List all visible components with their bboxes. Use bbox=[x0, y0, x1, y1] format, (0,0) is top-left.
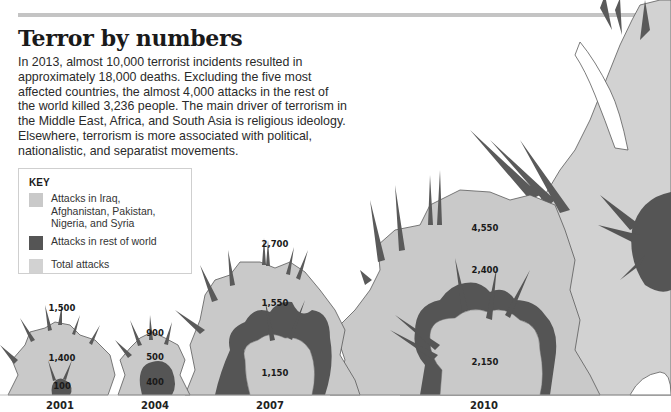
legend-item-rest-of-world: Attacks in rest of world bbox=[29, 235, 181, 250]
value-2004-total: 900 bbox=[146, 328, 164, 338]
legend-swatch-rest-of-world bbox=[29, 236, 43, 250]
value-2001-five: 1,400 bbox=[49, 353, 76, 363]
value-2010-total: 4,550 bbox=[472, 223, 499, 233]
value-2007-total: 2,700 bbox=[262, 239, 289, 249]
value-2004-five: 500 bbox=[146, 352, 164, 362]
value-2004-rest: 400 bbox=[146, 377, 164, 387]
year-label-2010: 2010 bbox=[470, 400, 498, 411]
year-label-2001: 2001 bbox=[46, 400, 74, 411]
legend-item-total: Total attacks bbox=[29, 258, 181, 273]
legend-label: Attacks in Iraq, Afghanistan, Pakistan, … bbox=[51, 192, 181, 230]
value-2007-rest: 1,550 bbox=[262, 298, 289, 308]
legend-swatch-five-countries bbox=[29, 193, 43, 207]
value-2001-total: 1,500 bbox=[49, 303, 76, 313]
legend-label: Attacks in rest of world bbox=[51, 235, 157, 248]
value-2010-rest: 2,400 bbox=[472, 265, 499, 275]
legend-label: Total attacks bbox=[51, 258, 109, 271]
value-2007-five: 1,150 bbox=[262, 368, 289, 378]
legend: KEY Attacks in Iraq, Afghanistan, Pakist… bbox=[18, 168, 192, 274]
year-label-2007: 2007 bbox=[256, 400, 284, 411]
legend-item-five-countries: Attacks in Iraq, Afghanistan, Pakistan, … bbox=[29, 192, 181, 230]
value-2010-five: 2,150 bbox=[472, 357, 499, 367]
legend-title: KEY bbox=[29, 177, 181, 188]
legend-swatch-total bbox=[29, 259, 43, 273]
value-2001-rest: 100 bbox=[53, 381, 71, 391]
year-label-2004: 2004 bbox=[141, 400, 169, 411]
